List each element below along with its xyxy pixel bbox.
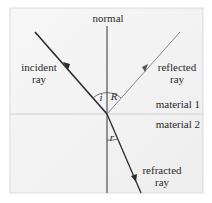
reflected-label-line1: reflected xyxy=(150,61,204,73)
refracted-label-line2: ray xyxy=(134,176,190,188)
refracted-label-line1: refracted xyxy=(134,164,190,176)
incident-ray-label: incident ray xyxy=(14,61,64,85)
reflected-label-line2: ray xyxy=(150,73,204,85)
angle-R-label: R xyxy=(109,90,119,102)
angle-r-label: r xyxy=(108,131,116,143)
normal-label: normal xyxy=(88,12,128,24)
material2-label: material 2 xyxy=(140,118,200,130)
reflected-ray-label: reflected ray xyxy=(150,61,204,85)
incident-label-line2: ray xyxy=(14,73,64,85)
angle-i-label: i xyxy=(97,91,105,103)
refracted-ray-label: refracted ray xyxy=(134,164,190,188)
incident-label-line1: incident xyxy=(14,61,64,73)
material1-label: material 1 xyxy=(140,98,200,110)
